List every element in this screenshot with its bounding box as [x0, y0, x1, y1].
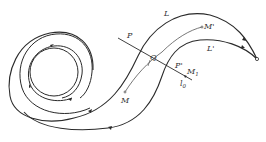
- label-P: P: [126, 31, 133, 40]
- label-L: L: [163, 9, 169, 18]
- label-L-prime: L': [206, 44, 215, 53]
- trajectory-L: [9, 14, 257, 121]
- point-M-prime: [201, 26, 203, 28]
- label-M-prime: M': [203, 22, 214, 31]
- point-M: [124, 91, 126, 93]
- label-P-prime: P': [174, 61, 183, 70]
- endpoint-icon: [255, 57, 258, 60]
- diagram-canvas: L M' L' P Q P' M1 l0 M: [0, 0, 266, 142]
- spiral-ring-inner: [28, 46, 82, 101]
- label-M1: M1: [186, 67, 199, 77]
- label-l0: l0: [180, 79, 187, 89]
- limit-cycle: [30, 48, 78, 96]
- phase-portrait-diagram: L M' L' P Q P' M1 l0 M: [0, 0, 266, 142]
- arrow-icon: [241, 45, 245, 48]
- label-Q: Q: [150, 53, 157, 62]
- trajectory-L-prime: [24, 40, 257, 130]
- label-M: M: [120, 96, 130, 105]
